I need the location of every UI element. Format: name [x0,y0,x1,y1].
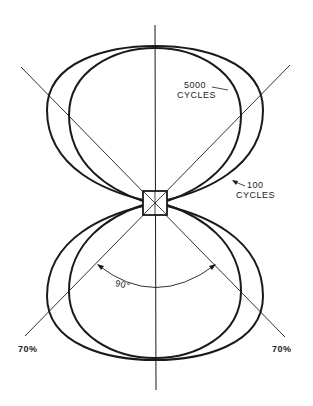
label-left-percent: 70% [18,344,38,354]
label-5000-cycles: CYCLES [177,90,216,100]
label-5000: 5000 [184,80,206,90]
label-right-percent: 70% [272,344,292,354]
label-100-cycles: CYCLES [236,190,275,200]
lower-lobe-5000-cycles [69,205,241,358]
label-angle: 90° [114,278,131,291]
lower-lobe-100-cycles [47,206,263,360]
directivity-diagram: 5000 CYCLES 100 CYCLES 90° 70% 70% [0,0,313,406]
label-100: 100 [247,180,264,190]
leader-100-arrow-icon [232,180,238,185]
